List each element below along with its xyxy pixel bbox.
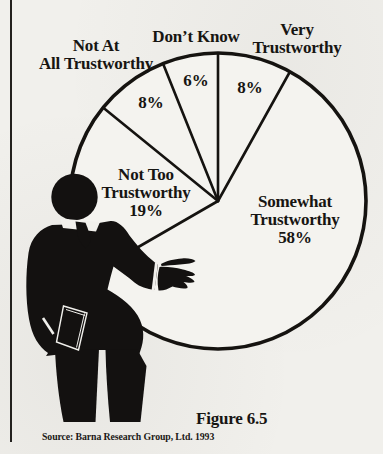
silhouette-right-leg — [106, 349, 147, 422]
value-dont-know-pct: 6% — [183, 72, 209, 89]
scanned-page: Not At All Trustworthy Don’t Know Very T… — [0, 0, 383, 454]
label-somewhat-trustworthy: Somewhat Trustworthy 58% — [250, 193, 339, 247]
label-not-too-trustworthy: Not Too Trustworthy 19% — [101, 166, 190, 220]
source-credit: Source: Barna Research Group, Ltd. 1993 — [42, 431, 214, 442]
label-not-at-all-trustworthy: Not At All Trustworthy — [39, 37, 153, 73]
value-very-pct: 8% — [237, 79, 263, 96]
figure-caption: Figure 6.5 — [196, 409, 267, 429]
silhouette-head — [51, 174, 97, 220]
label-very-trustworthy: Very Trustworthy — [252, 21, 341, 57]
value-not-at-all-pct: 8% — [138, 94, 164, 111]
label-dont-know: Don’t Know — [152, 28, 239, 46]
silhouette-left-leg — [55, 349, 99, 422]
